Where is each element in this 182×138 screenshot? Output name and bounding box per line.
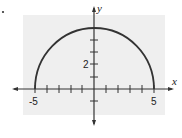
x-axis-arrow-left [12, 87, 18, 91]
y-tick-label-2: 2 [83, 59, 89, 70]
x-axis-label: x [171, 75, 177, 87]
y-axis-label: y [96, 2, 102, 14]
x-tick-label-neg5: -5 [29, 96, 38, 107]
y-axis-arrow-up [92, 6, 96, 12]
x-tick-label-5: 5 [151, 96, 157, 107]
semicircle-chart: y x -5 5 2 [0, 0, 182, 138]
y-axis-arrow-down [92, 120, 96, 126]
item-marker-dot [2, 11, 4, 13]
x-axis-arrow-right [168, 87, 174, 91]
